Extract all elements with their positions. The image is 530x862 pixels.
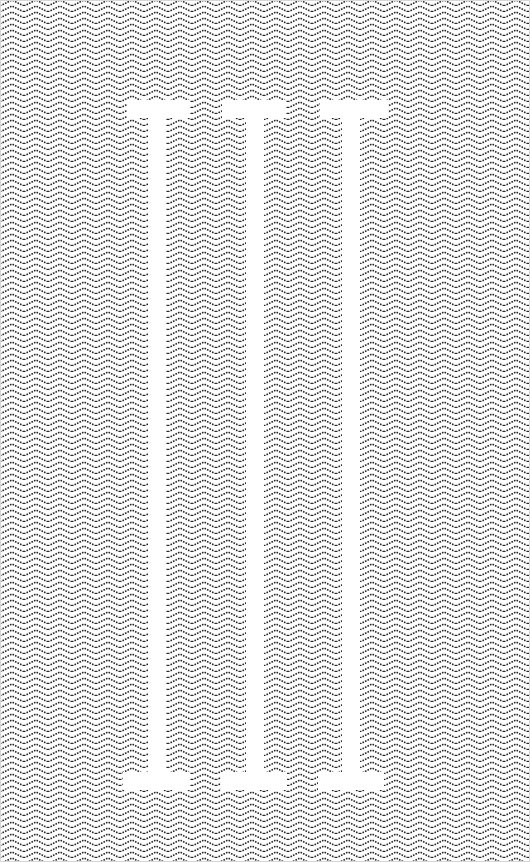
- pillar-right: [318, 100, 388, 790]
- pillar-left: [123, 100, 190, 790]
- pillar-middle: [221, 100, 287, 790]
- roman-numeral-three: III: [0, 0, 530, 862]
